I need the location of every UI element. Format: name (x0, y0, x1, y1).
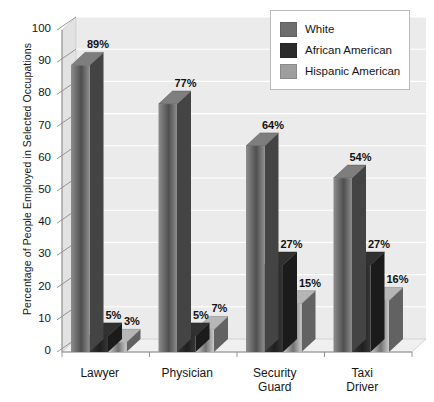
legend-label: Hispanic American (305, 65, 400, 77)
x-axis-category-line: Driver (319, 380, 407, 394)
y-axis-tick: 30 (21, 247, 51, 259)
x-axis-category-line: Security (231, 366, 319, 380)
legend-item: White (280, 19, 401, 39)
bar-value-label: 77% (175, 77, 197, 89)
legend-label: African American (305, 44, 392, 56)
bar-value-label: 16% (387, 273, 409, 285)
y-axis-tick: 100 (21, 22, 51, 34)
x-axis-category-line: Taxi (319, 366, 407, 380)
x-axis-category-line: Lawyer (56, 366, 144, 380)
legend-item: Hispanic American (280, 61, 401, 81)
y-axis-tick: 70 (21, 119, 51, 131)
bar-value-label: 7% (212, 302, 228, 314)
bar-value-label: 89% (87, 38, 109, 50)
bar-value-label: 3% (124, 315, 140, 327)
y-axis-tick: 0 (21, 344, 51, 356)
y-axis-tick: 80 (21, 86, 51, 98)
legend-swatch (280, 64, 297, 79)
x-axis-category: Lawyer (56, 366, 144, 380)
bar-value-label: 64% (262, 119, 284, 131)
y-axis-tick: 40 (21, 215, 51, 227)
bar-value-label: 27% (368, 238, 390, 250)
y-axis-tick: 50 (21, 183, 51, 195)
x-axis-category: SecurityGuard (231, 366, 319, 394)
bar-value-label: 5% (193, 309, 209, 321)
legend-swatch (280, 22, 297, 37)
bar-value-label: 54% (350, 151, 372, 163)
y-axis-tick: 20 (21, 280, 51, 292)
x-axis-category-line: Physician (144, 366, 232, 380)
y-axis-tick: 90 (21, 54, 51, 66)
legend-item: African American (280, 40, 401, 60)
x-axis-category-line: Guard (231, 380, 319, 394)
bar-chart: Percentage of People Employed in Selecte… (0, 0, 434, 402)
y-axis-tick: 60 (21, 151, 51, 163)
bar-value-label: 27% (281, 238, 303, 250)
bar-value-label: 15% (299, 277, 321, 289)
bar-value-label: 5% (106, 309, 122, 321)
legend-swatch (280, 43, 297, 58)
x-axis-category: TaxiDriver (319, 366, 407, 394)
legend: WhiteAfrican AmericanHispanic American (270, 10, 410, 90)
y-axis-tick: 10 (21, 312, 51, 324)
legend-label: White (305, 23, 334, 35)
x-axis-category: Physician (144, 366, 232, 380)
